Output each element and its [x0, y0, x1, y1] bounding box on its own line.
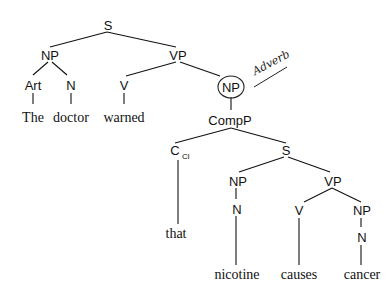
node-v-embedded: V: [295, 204, 304, 217]
tree-edges: [0, 0, 392, 295]
node-np-circled: NP: [222, 81, 240, 94]
node-vp-embedded: VP: [324, 175, 341, 188]
node-n-embedded: N: [232, 203, 241, 216]
node-c: C: [170, 144, 179, 157]
node-np-embedded: NP: [229, 175, 247, 188]
word-the: The: [22, 111, 44, 125]
word-cancer: cancer: [344, 268, 381, 282]
word-that: that: [166, 227, 187, 241]
node-n-subject: N: [66, 79, 75, 92]
node-np-subject: NP: [41, 49, 59, 62]
word-doctor: doctor: [53, 111, 89, 125]
word-causes: causes: [281, 268, 318, 282]
node-np-object: NP: [353, 204, 371, 217]
node-s-embedded: S: [282, 144, 291, 157]
node-art: Art: [25, 79, 42, 92]
word-nicotine: nicotine: [214, 268, 259, 282]
node-s-root: S: [104, 19, 113, 32]
node-compp: CompP: [208, 114, 251, 127]
node-vp-main: VP: [169, 49, 186, 62]
word-warned: warned: [103, 111, 144, 125]
node-n-object: N: [357, 231, 366, 244]
node-c-subscript: Cl: [182, 153, 190, 161]
node-v-main: V: [120, 79, 129, 92]
